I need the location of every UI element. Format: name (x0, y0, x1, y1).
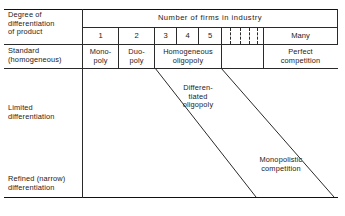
dashed-tick-4 (257, 28, 258, 44)
row-header-degree-of-differentiation: Degree of differentiation of product (8, 11, 80, 37)
col-divider-5-gap (221, 27, 222, 68)
firm-count-4: 4 (177, 31, 198, 40)
header-axis-divider (82, 27, 338, 28)
cell-homogeneous-oligopoly: Homogeneous oligopoly (155, 48, 221, 65)
firm-count-many: Many (264, 31, 337, 40)
dashed-tick-3 (249, 28, 250, 44)
band-label-differentiated-oligopoly: Differen- tiated oligopoly (167, 84, 229, 110)
market-structure-diagram: Degree of differentiation of product Num… (0, 0, 345, 216)
band-label-monopolistic-competition: Monopolistic competition (245, 156, 317, 173)
axis-title-number-of-firms: Number of firms in industry (86, 13, 334, 22)
dashed-tick-1 (230, 28, 231, 44)
cell-duopoly: Duo- poly (119, 48, 154, 65)
row-label-refined-differentiation: Refined (narrow) differentiation (8, 175, 86, 192)
perfect-competition-bottom (263, 68, 338, 69)
dashed-tick-2 (240, 28, 241, 44)
firm-count-1: 1 (83, 31, 118, 40)
firm-count-3: 3 (155, 31, 176, 40)
row-label-limited-differentiation: Limited differentiation (8, 104, 84, 121)
firm-count-2: 2 (119, 31, 154, 40)
row-label-standard: Standard (homogeneous) (8, 47, 82, 64)
frame-bottom-border (4, 197, 338, 198)
cell-monopoly: Mono- poly (83, 48, 118, 65)
frame-right-border (337, 9, 338, 45)
firm-count-5: 5 (199, 31, 221, 40)
cell-perfect-competition: Perfect competition (264, 48, 337, 65)
diagonal-right-boundary (221, 68, 334, 197)
header-numbers-divider (4, 44, 338, 45)
